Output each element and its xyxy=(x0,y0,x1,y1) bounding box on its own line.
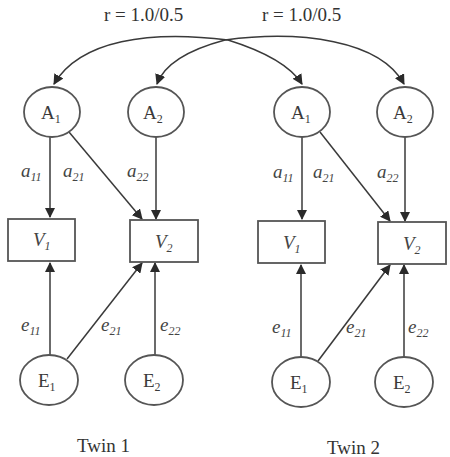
correlation-arc-a2-twin2-end xyxy=(225,36,404,84)
node-a2-twin1: A2 xyxy=(128,87,184,137)
caption-twin-1: Twin 1 xyxy=(77,435,130,456)
node-v1-twin2: V1 xyxy=(258,221,325,263)
node-v2-twin2: V2 xyxy=(378,222,446,264)
label-e22-twin1: e22 xyxy=(160,314,180,338)
label-a11-twin1: a11 xyxy=(21,160,42,184)
label-a22-twin2: a22 xyxy=(377,161,399,185)
path-e21-twin2 xyxy=(318,265,390,361)
caption-twin-2: Twin 2 xyxy=(327,437,380,457)
correlation-label-a1: r = 1.0/0.5 xyxy=(104,4,183,25)
twin-1-group: A1 A2 a11 a21 a22 V1 V2 e11 e21 e22 E1 xyxy=(8,87,198,456)
twin-path-diagram: r = 1.0/0.5 r = 1.0/0.5 A1 A2 a11 a21 a2… xyxy=(0,0,450,457)
correlation-label-a2: r = 1.0/0.5 xyxy=(262,4,341,25)
twin-2-group: A1 A2 a11 a21 a22 V1 V2 e11 e21 e22 E1 xyxy=(258,87,446,457)
label-a11-twin2: a11 xyxy=(273,161,294,185)
correlation-arc-a2-twin1-end xyxy=(157,40,225,84)
node-a2-twin2: A2 xyxy=(377,87,433,137)
label-e11-twin1: e11 xyxy=(21,314,41,338)
node-e2-twin2: E2 xyxy=(375,357,433,407)
label-a21-twin1: a21 xyxy=(63,160,85,184)
node-a1-twin1: A1 xyxy=(24,87,80,137)
label-a21-twin2: a21 xyxy=(313,161,335,185)
correlation-arc-a1-twin1-end xyxy=(54,36,228,84)
label-a22-twin1: a22 xyxy=(127,160,149,184)
label-e22-twin2: e22 xyxy=(408,316,428,340)
node-e2-twin1: E2 xyxy=(125,355,183,405)
label-e11-twin2: e11 xyxy=(272,316,292,340)
label-e21-twin1: e21 xyxy=(101,314,121,338)
label-e21-twin2: e21 xyxy=(346,316,366,340)
node-a1-twin2: A1 xyxy=(274,87,330,137)
node-e1-twin1: E1 xyxy=(20,355,78,405)
node-v2-twin1: V2 xyxy=(130,220,198,262)
correlation-arc-a1-twin2-end xyxy=(228,40,302,84)
node-e1-twin2: E1 xyxy=(272,357,330,407)
path-e21-twin1 xyxy=(67,263,142,359)
node-v1-twin1: V1 xyxy=(8,219,75,261)
